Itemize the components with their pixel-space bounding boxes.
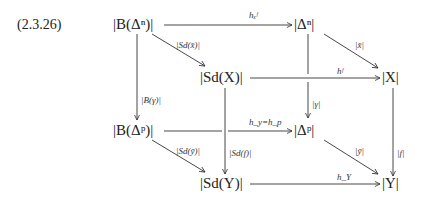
label-hf: hᶠ [337,66,343,76]
diagram-arrows [0,0,425,199]
label-xbar: |x̄| [355,40,364,50]
node-b-delta-p: |B(Δᵖ)| [113,122,153,139]
label-sd-f: |Sd(f)| [229,148,251,158]
node-b-delta-n: |B(Δⁿ)| [113,16,153,33]
label-hxf: hₓᶠ [249,10,258,20]
node-y: |Y| [382,175,399,192]
node-x: |X| [382,69,399,86]
label-ybar: |ȳ| [355,146,364,156]
equation-number: (2.3.26) [17,17,61,33]
label-f: |f| [397,148,404,158]
label-hy-hp: h_y=h_p [249,117,282,127]
label-sd-xbar: |Sd(x̄)| [176,40,200,50]
label-gamma: |γ| [312,99,321,109]
node-delta-n: |Δⁿ| [294,16,314,33]
label-hY: h_Y [337,172,351,182]
node-delta-p: |Δᵖ| [294,122,314,139]
node-sd-y: |Sd(Y)| [200,175,243,192]
node-sd-x: |Sd(X)| [200,69,243,86]
label-b-gamma: |B(γ)| [141,95,161,105]
label-sd-ybar: |Sd(ȳ)| [176,146,200,156]
